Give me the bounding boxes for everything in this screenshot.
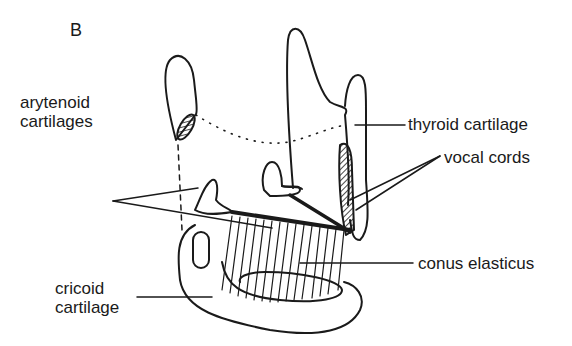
panel-letter: B [70,21,82,40]
leader-arytenoid-2 [113,188,198,201]
label-cricoid-line1: cricoid [55,279,104,298]
label-arytenoid-line1: arytenoid [20,93,90,112]
label-arytenoid-line2: cartilages [20,112,93,131]
label-cricoid-line2: cartilage [55,298,119,317]
left-horn-hatched [174,112,198,142]
label-vocal-cords: vocal cords [444,148,530,167]
leader-vocal-1 [350,156,440,200]
cricoid-pill [193,232,209,268]
arytenoid-mid [263,162,300,196]
larynx-diagram: B arytenoid cartilages thyroid cartilage… [0,0,572,346]
leader-vocal-2 [356,156,440,210]
label-conus-elasticus: conus elasticus [418,254,534,273]
arytenoid-left [195,180,232,214]
label-thyroid-cartilage: thyroid cartilage [408,115,528,134]
